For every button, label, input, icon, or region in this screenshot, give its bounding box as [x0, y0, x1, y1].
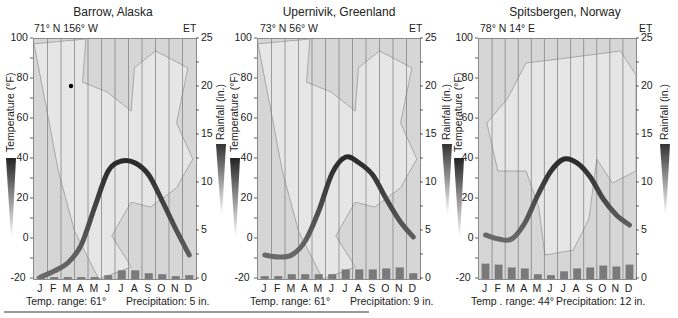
temp-tick-label: -20	[234, 271, 249, 283]
month-label: F	[47, 282, 59, 294]
bottom-divider	[4, 311, 369, 313]
precipitation-bar	[118, 270, 126, 279]
precipitation-bar	[599, 266, 607, 279]
month-label: O	[155, 282, 167, 294]
temp-tick-label: 0	[23, 231, 29, 243]
precipitation-bar	[50, 277, 58, 279]
precipitation-total-label: Precipitation: 12 in.	[556, 295, 645, 307]
location-coords: 73° N 56° W	[260, 22, 318, 34]
precipitation-bar	[172, 276, 180, 279]
month-label: D	[182, 282, 194, 294]
temperature-wedge-icon	[454, 158, 466, 238]
precipitation-bar	[64, 277, 72, 279]
month-label: J	[557, 282, 569, 294]
precipitation-bar	[382, 268, 390, 279]
chart-title: Spitsbergen, Norway	[452, 5, 678, 19]
month-label: F	[271, 282, 283, 294]
month-label: J	[115, 282, 127, 294]
month-label: A	[128, 282, 140, 294]
month-label: M	[61, 282, 73, 294]
month-label: J	[34, 282, 46, 294]
precipitation-bar	[396, 267, 404, 279]
month-label: J	[544, 282, 556, 294]
rain-tick-label: 15	[641, 127, 653, 139]
month-label: M	[505, 282, 517, 294]
precipitation-bar	[586, 267, 594, 279]
precipitation-bar	[274, 276, 282, 279]
rain-tick-label: 15	[425, 127, 437, 139]
temp-tick-label: -20	[10, 271, 25, 283]
temp-tick-label: 20	[17, 191, 29, 203]
rain-tick-label: 0	[425, 271, 431, 283]
precipitation-bar	[534, 274, 542, 279]
precipitation-bar	[261, 276, 269, 279]
temp-tick-label: 100	[10, 31, 28, 43]
rain-tick-label: 25	[425, 31, 437, 43]
temp-range-label: Temp. range: 61°	[250, 295, 330, 307]
temp-range-label: Temp. range: 61°	[26, 295, 106, 307]
precipitation-bar	[158, 274, 166, 279]
temp-tick-label: 100	[455, 31, 473, 43]
precipitation-bar	[508, 267, 516, 279]
station-dot	[69, 84, 73, 88]
precipitation-bar	[369, 269, 377, 279]
precipitation-bar	[104, 275, 112, 279]
plot-area	[257, 38, 421, 280]
precipitation-bar	[288, 274, 296, 279]
month-label: F	[492, 282, 504, 294]
precipitation-bar	[547, 275, 555, 279]
rainfall-axis-label: Rainfall (in.)	[214, 84, 226, 140]
rain-tick-label: 5	[641, 223, 647, 235]
temperature-wedge-icon	[230, 158, 242, 238]
month-label: J	[339, 282, 351, 294]
climate-type-label: ET	[183, 22, 196, 34]
temperature-axis-label: Temperature (°F)	[228, 73, 240, 152]
rain-tick-label: 15	[201, 127, 213, 139]
precipitation-bar	[328, 274, 336, 279]
rain-tick-label: 10	[425, 175, 437, 187]
climate-type-label: ET	[409, 22, 422, 34]
precipitation-bar	[77, 277, 85, 279]
month-label: A	[74, 282, 86, 294]
temp-tick-label: 40	[17, 151, 29, 163]
precipitation-bar	[612, 267, 620, 279]
month-label: A	[352, 282, 364, 294]
temperature-axis-label: Temperature (°F)	[4, 73, 16, 152]
chart-title: Upernivik, Greenland	[226, 5, 452, 19]
temp-tick-label: 0	[247, 231, 253, 243]
temp-range-label: Temp . range: 44°	[471, 295, 554, 307]
rain-tick-label: 0	[641, 271, 647, 283]
month-label: J	[325, 282, 337, 294]
month-label: N	[393, 282, 405, 294]
month-label: J	[479, 282, 491, 294]
rain-tick-label: 25	[201, 31, 213, 43]
precipitation-bar	[355, 269, 363, 279]
month-label: M	[312, 282, 324, 294]
temp-tick-label: 60	[17, 111, 29, 123]
month-label: A	[518, 282, 530, 294]
month-label: S	[142, 282, 154, 294]
precipitation-bar	[626, 265, 634, 279]
rain-tick-label: 10	[201, 175, 213, 187]
temp-tick-label: 40	[241, 151, 253, 163]
precipitation-bar	[185, 275, 193, 279]
month-label: N	[609, 282, 621, 294]
rain-tick-label: 5	[425, 223, 431, 235]
precipitation-bar	[495, 265, 503, 279]
precipitation-bar	[342, 269, 350, 279]
rainfall-axis-label: Rainfall (in.)	[440, 84, 452, 140]
precipitation-bar	[482, 264, 490, 279]
precipitation-bar	[573, 268, 581, 279]
temp-tick-label: 80	[17, 71, 29, 83]
month-label: A	[298, 282, 310, 294]
map-background	[487, 51, 636, 255]
precipitation-total-label: Precipitation: 9 in.	[350, 295, 433, 307]
month-label: O	[596, 282, 608, 294]
temperature-axis-label: Temperature (°F)	[452, 73, 464, 152]
month-label: O	[379, 282, 391, 294]
rainfall-wedge-icon	[442, 144, 454, 216]
month-label: M	[285, 282, 297, 294]
rainfall-axis-label: Rainfall (in.)	[658, 84, 670, 140]
rain-tick-label: 20	[201, 79, 213, 91]
precipitation-bar	[91, 277, 99, 279]
